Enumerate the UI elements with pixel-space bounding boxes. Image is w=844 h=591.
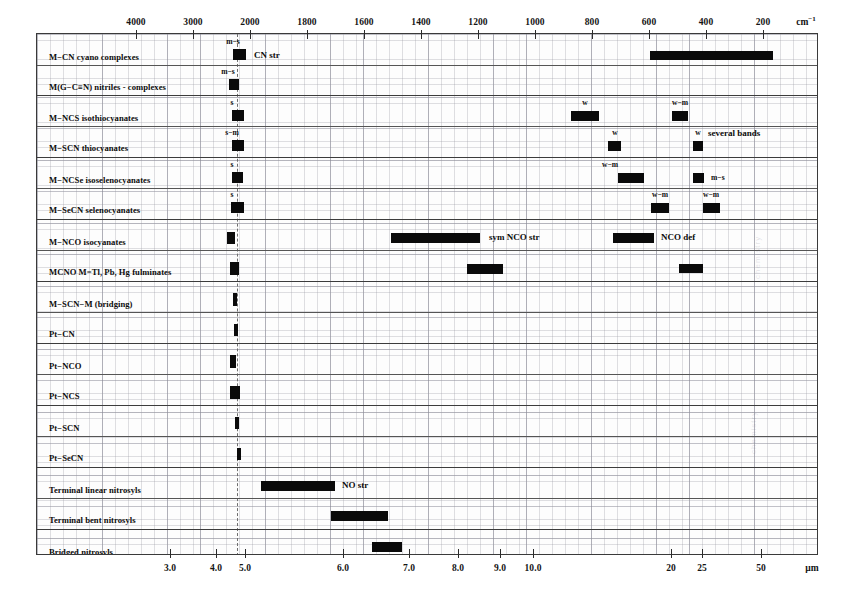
band-bar <box>651 203 669 213</box>
band-note: several bands <box>708 128 760 138</box>
row-label: M−NCS isothiocyanates <box>49 113 138 123</box>
band-bar <box>230 386 240 399</box>
band-bar <box>703 203 720 213</box>
bottom-tick-label: 20 <box>666 563 676 573</box>
top-tick-label: 800 <box>585 17 600 27</box>
row-label: Pt−CN <box>49 329 75 339</box>
row-m-scn-m-bridging: M−SCN−M (bridging) <box>37 281 818 312</box>
band-note: m−s <box>711 173 725 182</box>
row-terminal-bent-nitrosyls: Terminal bent nitrosyls <box>37 498 818 529</box>
row-label: M−CN cyano complexes <box>49 52 139 62</box>
row-pt-nco: Pt−NCO <box>37 343 818 374</box>
row-m-nco-isocyanates: M−NCO isocyanates sym NCO str NCO def <box>37 219 818 250</box>
band-bar <box>571 111 599 121</box>
bottom-tick-label: 50 <box>756 563 766 573</box>
row-label: M−NCO isocyanates <box>49 237 126 247</box>
band-intensity-label: w <box>582 98 587 107</box>
row-pt-cn: Pt−CN <box>37 312 818 343</box>
top-tick-label: 1600 <box>354 17 373 27</box>
band-bar <box>650 51 773 60</box>
row-label: M−SeCN selenocyanates <box>49 205 140 215</box>
band-bar <box>679 264 703 273</box>
top-tick-label: 2000 <box>240 17 259 27</box>
band-bar <box>229 79 239 90</box>
row-terminal-linear-nitrosyls: Terminal linear nitrosyls NO str <box>37 467 818 498</box>
band-bar <box>233 293 237 306</box>
top-tick-label: 1800 <box>297 17 316 27</box>
row-label: M−SCN−M (bridging) <box>49 299 133 309</box>
bottom-axis-unit-label: µm <box>805 563 818 573</box>
top-tick-label: 200 <box>756 17 771 27</box>
row-label: M−NCSe isoselenocyanates <box>49 175 150 185</box>
band-intensity-label: w−m <box>652 190 668 199</box>
band-intensity-label: w−m <box>672 98 688 107</box>
top-tick-label: 1200 <box>468 17 487 27</box>
band-bar <box>618 173 644 183</box>
band-note: NO str <box>342 480 368 490</box>
band-intensity-label: w <box>612 128 617 137</box>
band-bar <box>467 264 503 274</box>
row-pt-scn: Pt−SCN <box>37 405 818 436</box>
band-bar <box>232 110 244 121</box>
band-intensity-label: w <box>695 128 700 137</box>
row-m-ncs-isothiocyanates: M−NCS isothiocyanates s w w−m <box>37 95 818 126</box>
band-bar <box>231 202 244 213</box>
band-bar <box>230 262 239 275</box>
band-bar <box>331 511 388 521</box>
row-bridged-nitrosyls: Bridged nitrosyls <box>37 529 818 555</box>
row-label: MCNO M=Tl, Pb, Hg fulminates <box>49 267 171 277</box>
band-note: sym NCO str <box>489 232 540 242</box>
band-bar <box>391 233 480 243</box>
row-m-nitriles-complexes: M(G−C≡N) nitriles - complexes m−s <box>37 65 818 95</box>
plot-area: chemistry chemistry M−CN cyano complexes… <box>36 33 818 555</box>
band-bar <box>230 355 236 368</box>
row-label: Terminal linear nitrosyls <box>49 485 141 495</box>
bottom-tick-label: 10.0 <box>524 563 541 573</box>
row-label: Terminal bent nitrosyls <box>49 515 136 525</box>
bottom-tick-label: 25 <box>697 563 707 573</box>
band-intensity-label: w−m <box>602 160 618 169</box>
row-label: Bridged nitrosyls <box>49 547 113 555</box>
row-mcno-fulminates: MCNO M=Tl, Pb, Hg fulminates <box>37 250 818 281</box>
row-m-scn-thiocyanates: M−SCN thiocyanates s−m w w several bands <box>37 126 818 157</box>
bottom-tick-label: 4.0 <box>210 563 222 573</box>
band-bar <box>693 141 703 151</box>
row-pt-secn: Pt−SeCN <box>37 436 818 467</box>
band-bar <box>232 140 244 151</box>
band-bar <box>233 49 246 60</box>
band-bar <box>235 417 239 429</box>
row-m-ncse-isoselenocyanates: M−NCSe isoselenocyanates s w−m m−s <box>37 157 818 188</box>
row-label: M−SCN thiocyanates <box>49 143 128 153</box>
top-tick-label: 1400 <box>411 17 430 27</box>
bottom-tick-label: 9.0 <box>494 563 506 573</box>
bottom-tick-label: 5.0 <box>239 563 251 573</box>
row-label: Pt−SCN <box>49 423 80 433</box>
row-label: Pt−NCS <box>49 391 80 401</box>
row-pt-ncs: Pt−NCS <box>37 374 818 405</box>
band-bar <box>261 481 335 491</box>
bottom-tick-label: 6.0 <box>337 563 349 573</box>
band-note: NCO def <box>661 232 695 242</box>
row-label: M(G−C≡N) nitriles - complexes <box>49 82 166 92</box>
band-intensity-label: w−m <box>703 190 719 199</box>
band-intensity-label: s <box>231 98 234 107</box>
bottom-tick-label: 8.0 <box>452 563 464 573</box>
band-intensity-label: s−m <box>225 128 239 137</box>
band-note: CN str <box>254 50 280 60</box>
band-bar <box>372 542 402 552</box>
band-bar <box>227 232 235 244</box>
row-label: Pt−SeCN <box>49 453 83 463</box>
ir-correlation-chart: chemistry chemistry M−CN cyano complexes… <box>0 0 844 591</box>
band-intensity-label: m−s <box>226 37 240 46</box>
bottom-tick-label: 3.0 <box>164 563 176 573</box>
top-tick-label: 600 <box>642 17 657 27</box>
band-intensity-label: m−s <box>221 67 235 76</box>
band-bar <box>672 111 688 121</box>
top-tick-label: 4000 <box>126 17 145 27</box>
band-intensity-label: s <box>231 160 234 169</box>
band-bar <box>237 448 241 460</box>
bottom-tick-label: 7.0 <box>403 563 415 573</box>
row-label: Pt−NCO <box>49 361 81 371</box>
band-bar <box>693 173 704 183</box>
top-tick-label: 3000 <box>183 17 202 27</box>
